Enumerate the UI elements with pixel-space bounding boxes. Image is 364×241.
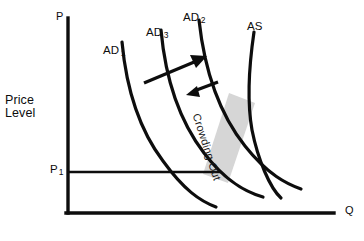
ad2-subscript: 2 xyxy=(199,15,205,25)
p1-subscript: 1 xyxy=(58,167,64,177)
ad3-base: AD xyxy=(146,26,162,38)
p1-tick-label: P1 xyxy=(50,163,64,175)
ad1-label: AD1 xyxy=(103,44,126,56)
ad2-label: AD2 xyxy=(183,11,206,23)
axis-title-line-1: Price xyxy=(5,93,34,107)
as-label: AS xyxy=(247,20,264,32)
horizontal-axis-end-label: Q xyxy=(345,205,354,217)
ad3-subscript: 3 xyxy=(162,30,168,40)
vertical-axis-title: Price Level xyxy=(5,94,35,120)
ad1-subscript: 1 xyxy=(119,48,125,58)
ad2-base: AD xyxy=(183,11,199,23)
axis-title-line-2: Level xyxy=(5,107,35,120)
as-subscript xyxy=(263,24,265,34)
ad-as-crowding-out-figure: Crowding Out P Q Price Level P1 AD1 AD3 … xyxy=(0,0,364,241)
ad3-label: AD3 xyxy=(146,26,169,38)
shift-right-arrow xyxy=(144,55,207,83)
diagram-canvas xyxy=(0,0,364,241)
as-base: AS xyxy=(247,20,263,32)
as-curve xyxy=(249,32,281,198)
vertical-axis-end-label: P xyxy=(56,11,63,23)
ad1-base: AD xyxy=(103,44,119,56)
p1-base: P xyxy=(50,163,58,175)
